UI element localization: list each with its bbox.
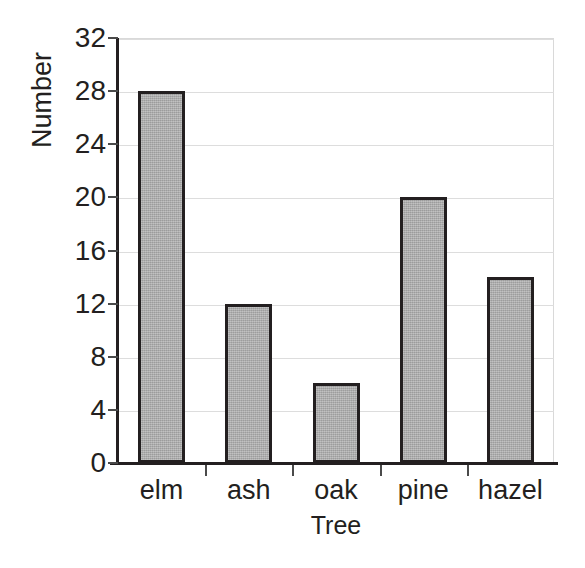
x-axis-title: Tree (118, 511, 554, 540)
y-axis-tick (108, 90, 118, 92)
bar-ash (225, 304, 272, 463)
bar-texture (490, 280, 531, 460)
y-axis-tick (108, 462, 118, 464)
bar-chart: Number 048121620242832 elmashoakpinehaze… (0, 0, 585, 568)
x-axis-tick-label-hazel: hazel (467, 477, 554, 504)
x-axis-tick (380, 465, 382, 476)
y-axis-tick (108, 250, 118, 252)
x-axis-tick-label-pine: pine (380, 477, 467, 504)
gridline (118, 39, 554, 40)
y-axis-tick (108, 356, 118, 358)
y-axis-tick-label: 24 (36, 130, 106, 158)
x-axis-tick-label-elm: elm (118, 477, 205, 504)
y-axis-tick (108, 409, 118, 411)
y-axis-tick (108, 303, 118, 305)
y-axis-tick-labels: 048121620242832 (28, 0, 106, 568)
y-axis-tick-label: 20 (36, 183, 106, 211)
y-axis-tick-label: 32 (36, 24, 106, 52)
bar-texture (141, 94, 182, 460)
x-axis-tick (292, 465, 294, 476)
y-axis-tick (108, 143, 118, 145)
bar-hazel (487, 277, 534, 463)
x-axis-tick (205, 465, 207, 476)
y-axis-tick (108, 196, 118, 198)
y-axis-spine (116, 38, 119, 465)
y-axis-tick-label: 4 (36, 396, 106, 424)
bar-texture (316, 386, 357, 460)
bar-elm (138, 91, 185, 463)
x-axis-tick-label-ash: ash (205, 477, 292, 504)
y-axis-tick (108, 37, 118, 39)
bar-texture (403, 200, 444, 460)
x-axis-tick (467, 465, 469, 476)
x-axis-tick-label-oak: oak (292, 477, 379, 504)
y-axis-tick-label: 0 (36, 449, 106, 477)
y-axis-tick-label: 28 (36, 77, 106, 105)
bar-texture (228, 307, 269, 460)
y-axis-tick-label: 8 (36, 343, 106, 371)
y-axis-tick-label: 16 (36, 237, 106, 265)
bar-pine (400, 197, 447, 463)
bar-oak (313, 383, 360, 463)
y-axis-tick-label: 12 (36, 290, 106, 318)
